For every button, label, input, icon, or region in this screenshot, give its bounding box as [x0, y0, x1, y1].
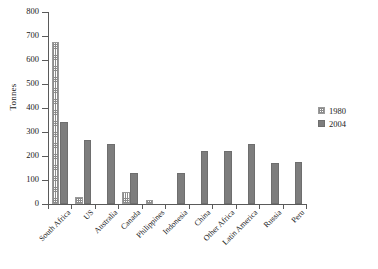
y-tick-label: 700: [11, 30, 39, 40]
bars-layer: [48, 12, 306, 204]
y-tick: 700: [42, 36, 48, 37]
y-tick: 400: [42, 108, 48, 109]
y-tick-label: 300: [11, 126, 39, 136]
bar: [130, 173, 138, 204]
bar: [248, 144, 256, 204]
x-axis-tick-labels: South AfricaUSAustraliaCanadaPhilippines…: [48, 206, 306, 268]
y-tick-label: 0: [11, 198, 39, 208]
legend-item: 1980: [318, 104, 376, 117]
bar: [52, 42, 60, 204]
bar: [60, 122, 68, 204]
y-tick-label: 600: [11, 54, 39, 64]
bar: [84, 140, 92, 204]
bar: [177, 173, 185, 204]
x-tick-label: China: [193, 208, 213, 228]
bar: [122, 192, 130, 204]
legend-item: 2004: [318, 117, 376, 130]
x-tick-label: Indonesia: [161, 208, 189, 236]
y-tick: 300: [42, 132, 48, 133]
y-tick: 800: [42, 12, 48, 13]
y-axis-label: Tonnes: [8, 62, 18, 132]
x-axis-line: [48, 204, 306, 205]
x-tick-label: Russia: [262, 208, 283, 229]
legend-label: 2004: [329, 119, 346, 129]
bar: [224, 151, 232, 204]
x-tick-label: Australia: [92, 208, 119, 235]
y-tick: 100: [42, 180, 48, 181]
y-tick: 500: [42, 84, 48, 85]
bar: [146, 200, 154, 204]
y-tick-label: 800: [11, 6, 39, 16]
legend-swatch-icon: [318, 120, 325, 127]
bar-chart: Tonnes 0100200300400500600700800 South A…: [0, 0, 378, 269]
y-tick-label: 200: [11, 150, 39, 160]
chart-legend: 19802004: [318, 104, 376, 130]
x-tick-label: US: [82, 208, 96, 222]
y-tick: 200: [42, 156, 48, 157]
bar: [295, 162, 303, 204]
y-tick-label: 400: [11, 102, 39, 112]
y-tick-label: 500: [11, 78, 39, 88]
bar: [201, 151, 209, 204]
x-tick: [306, 204, 307, 209]
x-tick-label: South Africa: [37, 208, 72, 243]
bar: [271, 163, 279, 204]
bar: [75, 197, 83, 204]
legend-label: 1980: [329, 106, 346, 116]
plot-area: 0100200300400500600700800: [48, 12, 306, 204]
y-tick-label: 100: [11, 174, 39, 184]
x-tick-label: Peru: [290, 208, 307, 225]
bar: [107, 144, 115, 204]
y-tick: 600: [42, 60, 48, 61]
legend-swatch-icon: [318, 107, 325, 114]
